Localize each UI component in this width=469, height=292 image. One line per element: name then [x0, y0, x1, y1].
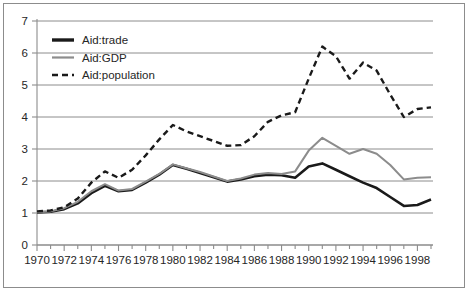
- y-tick-label-5: 5: [22, 79, 28, 91]
- x-tick-label-1986: 1986: [242, 254, 268, 266]
- x-tick-label-1990: 1990: [296, 254, 322, 266]
- legend-label-1: Aid:GDP: [82, 52, 127, 64]
- x-tick-label-1988: 1988: [269, 254, 295, 266]
- chart-page: 0123456719701972197419761978198019821984…: [0, 0, 469, 292]
- y-tick-label-1: 1: [22, 207, 28, 219]
- x-tick-label-1996: 1996: [377, 254, 403, 266]
- x-tick-label-1974: 1974: [79, 254, 105, 266]
- x-tick-label-1980: 1980: [160, 254, 186, 266]
- x-tick-label-1970: 1970: [24, 254, 50, 266]
- x-tick-label-1992: 1992: [323, 254, 349, 266]
- y-tick-label-3: 3: [22, 143, 28, 155]
- y-tick-label-6: 6: [22, 47, 28, 59]
- legend-label-0: Aid:trade: [82, 34, 128, 46]
- x-tick-label-1976: 1976: [106, 254, 132, 266]
- x-tick-label-1994: 1994: [350, 254, 376, 266]
- x-tick-label-1998: 1998: [405, 254, 431, 266]
- y-tick-label-0: 0: [22, 239, 28, 251]
- x-tick-label-1982: 1982: [187, 254, 213, 266]
- x-tick-label-1984: 1984: [214, 254, 240, 266]
- y-tick-label-4: 4: [22, 111, 29, 123]
- y-tick-label-2: 2: [22, 175, 28, 187]
- x-tick-label-1972: 1972: [51, 254, 77, 266]
- legend-label-2: Aid:population: [82, 69, 155, 81]
- x-tick-label-1978: 1978: [133, 254, 159, 266]
- line-chart: 0123456719701972197419761978198019821984…: [4, 4, 464, 287]
- y-tick-label-7: 7: [22, 15, 28, 27]
- chart-frame: 0123456719701972197419761978198019821984…: [3, 3, 465, 288]
